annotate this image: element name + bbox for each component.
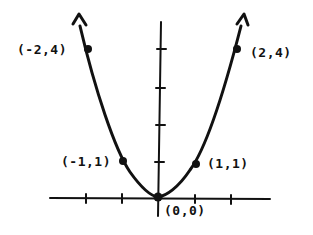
point-neg2-4 bbox=[84, 45, 92, 53]
label-origin: (0,0) bbox=[164, 203, 206, 218]
label-2-4: (2,4) bbox=[250, 45, 292, 60]
point-1-1 bbox=[192, 160, 200, 168]
label-neg2-4: (-2,4) bbox=[17, 42, 67, 57]
label-1-1: (1,1) bbox=[207, 156, 249, 171]
point-neg1-1 bbox=[119, 157, 127, 165]
label-neg1-1: (-1,1) bbox=[61, 154, 111, 169]
point-2-4 bbox=[233, 45, 241, 53]
point-origin bbox=[154, 193, 163, 202]
arrow-up-right-icon bbox=[237, 14, 248, 25]
parabola-chart: (-2,4) (-1,1) (0,0) (1,1) (2,4) bbox=[0, 0, 313, 235]
arrow-up-left-icon bbox=[73, 14, 86, 25]
y-axis bbox=[155, 22, 166, 216]
